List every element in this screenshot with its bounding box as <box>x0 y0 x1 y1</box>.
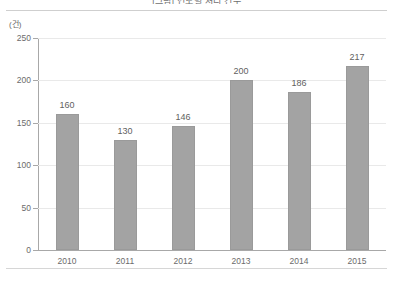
y-axis-unit-label: (건) <box>9 18 21 29</box>
x-axis-tick-label: 2013 <box>218 256 264 266</box>
bottom-divider <box>6 268 387 269</box>
y-axis-tick <box>33 123 38 124</box>
bar-value-label: 200 <box>221 66 261 76</box>
x-axis-tick-label: 2014 <box>276 256 322 266</box>
bar <box>56 114 79 250</box>
bar <box>288 92 311 250</box>
bar-value-label: 146 <box>163 112 203 122</box>
y-axis-tick <box>33 208 38 209</box>
bar <box>230 80 253 250</box>
y-axis-tick <box>33 38 38 39</box>
bar <box>346 66 369 250</box>
x-axis-tick-label: 2012 <box>160 256 206 266</box>
gridline <box>38 165 386 166</box>
x-axis-tick-label: 2011 <box>102 256 148 266</box>
y-axis-tick <box>33 80 38 81</box>
bar <box>172 126 195 250</box>
gridline <box>38 38 386 39</box>
y-axis-tick <box>33 165 38 166</box>
y-axis-tick <box>33 250 38 251</box>
plot-area <box>38 38 386 250</box>
y-axis-tick-label: 200 <box>3 75 31 85</box>
bar-value-label: 130 <box>105 126 145 136</box>
y-axis-tick-label: 250 <box>3 33 31 43</box>
y-axis-tick-label: 100 <box>3 160 31 170</box>
chart-title: [그림] 연도별 처리 건수 <box>0 0 393 4</box>
bar <box>114 140 137 250</box>
chart-figure: [그림] 연도별 처리 건수 (건) 050100150200250 16013… <box>0 0 393 281</box>
bar-value-label: 217 <box>337 52 377 62</box>
gridline <box>38 123 386 124</box>
bar-value-label: 160 <box>47 100 87 110</box>
bar-value-label: 186 <box>279 78 319 88</box>
top-divider <box>6 10 387 11</box>
x-axis-line <box>38 250 386 251</box>
y-axis-tick-label: 50 <box>3 203 31 213</box>
x-axis-tick-label: 2010 <box>44 256 90 266</box>
gridline <box>38 80 386 81</box>
y-axis-tick-label: 0 <box>3 245 31 255</box>
gridline <box>38 208 386 209</box>
x-axis-tick-label: 2015 <box>334 256 380 266</box>
y-axis-tick-label: 150 <box>3 118 31 128</box>
